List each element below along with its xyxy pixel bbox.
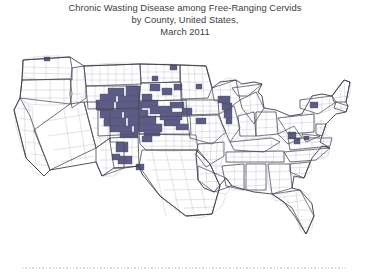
title-line-1: Chronic Wasting Disease among Free-Rangi… — [0, 2, 370, 14]
map-svg — [0, 38, 370, 266]
county-polygons — [14, 56, 350, 234]
us-county-choropleth-map — [0, 38, 370, 266]
title-line-3: March 2011 — [0, 26, 370, 38]
footer-divider — [22, 267, 348, 269]
cwd-map-figure: Chronic Wasting Disease among Free-Rangi… — [0, 0, 370, 277]
figure-title: Chronic Wasting Disease among Free-Rangi… — [0, 2, 370, 39]
title-line-2: by County, United States, — [0, 14, 370, 26]
